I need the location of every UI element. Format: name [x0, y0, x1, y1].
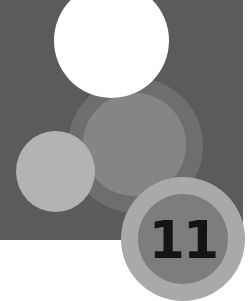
number-badge-inner: 11 — [138, 194, 228, 284]
number-badge: 11 — [121, 177, 245, 301]
small-light-circle — [16, 131, 95, 212]
badge-number: 11 — [149, 214, 217, 266]
